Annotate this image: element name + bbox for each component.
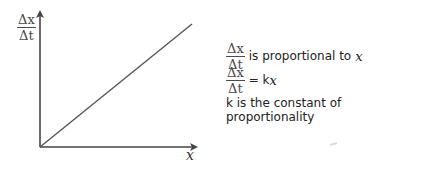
variable-x: x [355,49,362,64]
fraction-numerator: Δx [226,66,245,81]
note-line-2: Δx Δt = k x [226,68,425,92]
fraction-numerator: Δx [226,42,245,57]
notes-panel: Δx Δt is proportional to x Δx Δt = k x k… [226,44,425,124]
fraction: Δx Δt [226,66,245,95]
note-text: is proportional to [249,49,351,63]
x-axis-label: x [186,147,194,163]
y-axis-label-denominator: Δt [19,28,34,42]
y-axis-label-numerator: Δx [17,13,36,28]
note-line-1: Δx Δt is proportional to x [226,44,425,68]
proportional-line [40,24,192,147]
note-text: = k [249,73,270,87]
y-axis-label: Δx Δt [17,13,36,42]
variable-x: x [270,73,277,88]
fraction-denominator: Δt [228,81,243,95]
note-line-3: k is the constant of proportionality [226,96,425,124]
